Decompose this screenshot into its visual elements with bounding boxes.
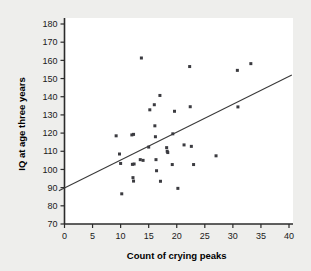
data-point [166,151,169,154]
data-point [159,180,162,183]
x-axis-title: Count of crying peaks [127,250,227,261]
x-tick-label: 20 [172,231,182,241]
data-point [132,133,135,136]
y-tick-label: 110 [43,146,57,156]
data-point [173,110,176,113]
data-point [132,180,135,183]
data-point [165,146,168,149]
y-axis-ticks: 708090100110120130140150160170180 [42,19,64,229]
x-tick-label: 15 [144,231,154,241]
data-point [158,94,161,97]
x-tick-label: 40 [284,231,294,241]
y-tick-label: 180 [42,19,57,29]
data-point [155,169,158,172]
y-tick-label: 140 [42,92,57,102]
data-point [192,163,195,166]
data-point [153,103,156,106]
y-tick-label: 130 [42,110,57,120]
data-point [189,105,192,108]
data-point [154,158,157,161]
x-axis-ticks: 0510152025303540 [62,224,294,241]
data-point [142,159,145,162]
x-tick-label: 5 [90,231,95,241]
data-point [236,69,239,72]
data-point [236,105,239,108]
y-tick-label: 100 [42,165,57,175]
data-point [171,132,174,135]
data-point [249,62,252,65]
data-point [153,124,156,127]
data-point [176,187,179,190]
y-tick-label: 90 [47,183,57,193]
scatter-plot-figure: 708090100110120130140150160170180 051015… [0,0,311,271]
y-axis-title: IQ at age three years [16,77,27,170]
data-point [171,163,174,166]
data-point [140,57,143,60]
data-point [139,158,142,161]
x-tick-label: 35 [256,231,266,241]
x-tick-label: 10 [116,231,126,241]
plot-area-background [65,18,294,224]
data-point [183,143,186,146]
y-tick-label: 160 [42,56,57,66]
y-tick-label: 70 [47,219,57,229]
data-point [131,176,134,179]
x-tick-label: 30 [228,231,238,241]
x-tick-label: 25 [200,231,210,241]
data-point [148,108,151,111]
data-point [118,153,121,156]
data-point [133,163,136,166]
data-point [119,162,122,165]
x-tick-label: 0 [62,231,67,241]
data-point [115,134,118,137]
y-tick-label: 170 [42,37,57,47]
data-point [215,154,218,157]
y-tick-label: 120 [42,128,57,138]
chart-canvas: 708090100110120130140150160170180 051015… [0,0,311,271]
data-point [147,146,150,149]
y-tick-label: 80 [47,201,57,211]
y-tick-label: 150 [42,74,57,84]
data-point [154,135,157,138]
data-point [120,192,123,195]
data-point [190,145,193,148]
data-point [188,65,191,68]
